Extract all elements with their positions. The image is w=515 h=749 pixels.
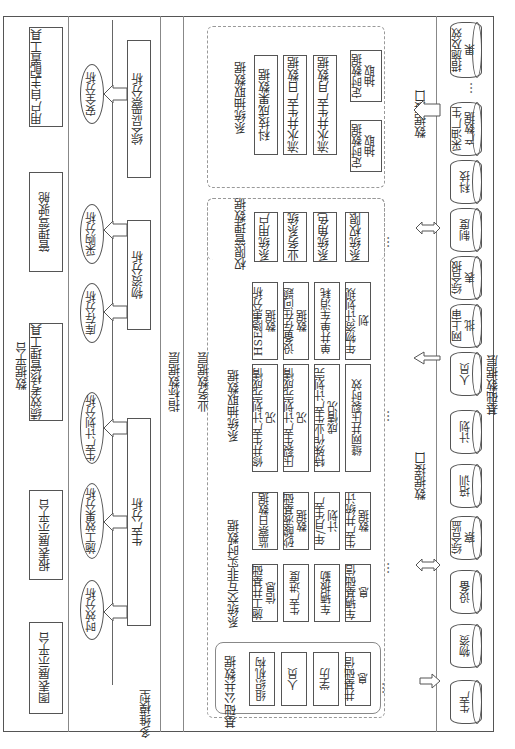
db-technology[interactable]: 科技	[450, 160, 482, 204]
more-dots: …	[461, 82, 475, 94]
db-online-approval[interactable]: 网上审批	[450, 304, 482, 348]
db-materials[interactable]: 物资	[450, 624, 482, 668]
db-regulations[interactable]: 制度	[450, 208, 482, 252]
db-comprehensive-report[interactable]: 综合报表	[450, 256, 482, 300]
db-production[interactable]: 生产	[450, 680, 482, 724]
db-measures-effects[interactable]: 措施及效果	[450, 22, 482, 78]
db-personnel[interactable]: 人员	[450, 352, 482, 396]
interface-arrow-icons	[0, 0, 515, 749]
db-comprehensive-monitor[interactable]: 综合监察	[450, 516, 482, 560]
db-plan[interactable]: 计划	[450, 410, 482, 454]
db-equipment[interactable]: 设备	[450, 570, 482, 614]
db-training[interactable]: 培训	[450, 464, 482, 508]
db-oil-production[interactable]: 采油厂生产数据	[450, 102, 482, 156]
